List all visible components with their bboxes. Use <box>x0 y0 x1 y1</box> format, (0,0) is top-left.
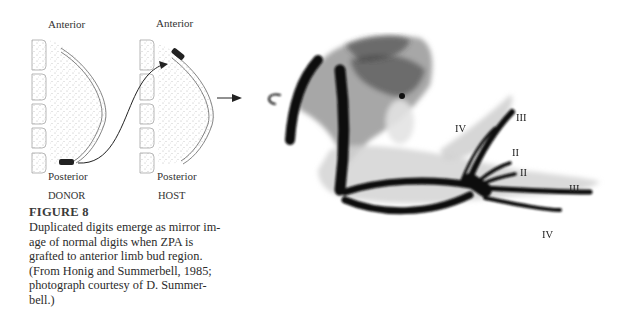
donor-somites <box>32 40 46 173</box>
caption-line: age of normal digits when ZPA is <box>29 235 259 250</box>
digit-label-upper-iii: III <box>516 112 527 123</box>
host-label: HOST <box>158 190 185 201</box>
host-somites <box>140 40 154 173</box>
digit-label-lower-ii: II <box>520 167 527 178</box>
digit-label-upper-ii: II <box>512 147 519 158</box>
dark-spot <box>399 93 405 99</box>
figure-number: FIGURE 8 <box>29 205 89 220</box>
caption-line: photograph courtesy of D. Summer- <box>29 278 259 293</box>
digit-label-lower-iii: III <box>569 183 580 194</box>
digit-label-lower-iv: IV <box>542 229 553 240</box>
caption-line: (From Honig and Summerbell, 1985; <box>29 264 259 279</box>
digit-label-upper-iv: IV <box>455 123 466 134</box>
caption-line: bell.) <box>29 293 259 308</box>
result-arrowhead <box>232 94 242 102</box>
limb-photograph <box>245 25 625 275</box>
limb-bud-graft-diagram <box>0 0 260 180</box>
figure-caption: Duplicated digits emerge as mirror im- a… <box>29 220 259 308</box>
caption-line: grafted to anterior limb bud region. <box>29 249 259 264</box>
host-posterior-label: Posterior <box>157 170 197 182</box>
donor-label: DONOR <box>48 190 85 201</box>
donor-posterior-label: Posterior <box>48 170 88 182</box>
caption-line: Duplicated digits emerge as mirror im- <box>29 220 259 235</box>
donor-zpa-block <box>59 159 74 165</box>
